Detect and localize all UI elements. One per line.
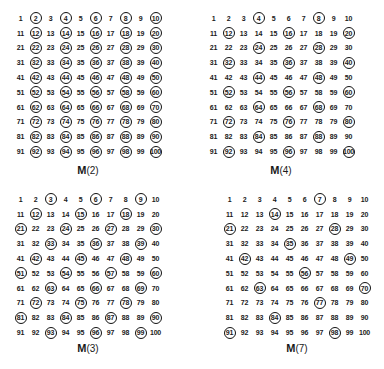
circled-number: 57 bbox=[103, 266, 118, 281]
number: 38 bbox=[327, 236, 342, 251]
number: 53 bbox=[43, 85, 58, 100]
number: 33 bbox=[236, 55, 251, 70]
number: 13 bbox=[252, 207, 267, 222]
circled-number: 88 bbox=[311, 129, 326, 144]
number: 2 bbox=[28, 192, 43, 207]
number: 53 bbox=[236, 85, 251, 100]
number: 9 bbox=[342, 192, 357, 207]
number: 89 bbox=[133, 310, 148, 325]
number: 27 bbox=[312, 222, 327, 237]
number: 87 bbox=[296, 129, 311, 144]
circled-number: 4 bbox=[251, 11, 266, 26]
circled-number: 60 bbox=[148, 85, 163, 100]
number: 86 bbox=[281, 129, 296, 144]
number: 100 bbox=[148, 325, 163, 340]
number: 48 bbox=[327, 251, 342, 266]
circled-number: 62 bbox=[28, 100, 43, 115]
circled-number: 78 bbox=[118, 115, 133, 130]
number-grid-m4: 1234567891011121314151617181920212223242… bbox=[206, 11, 356, 159]
number: 50 bbox=[341, 70, 356, 85]
circled-number: 12 bbox=[28, 26, 43, 41]
circled-number: 94 bbox=[58, 144, 73, 159]
circled-number: 70 bbox=[357, 281, 372, 296]
number: 36 bbox=[297, 236, 312, 251]
number: 44 bbox=[267, 251, 282, 266]
number: 97 bbox=[296, 144, 311, 159]
number: 41 bbox=[206, 70, 221, 85]
circled-number: 76 bbox=[281, 115, 296, 130]
circled-number: 24 bbox=[58, 222, 73, 237]
circled-number: 30 bbox=[148, 41, 163, 56]
circled-number: 40 bbox=[341, 55, 356, 70]
number: 59 bbox=[326, 85, 341, 100]
number: 56 bbox=[88, 266, 103, 281]
number: 43 bbox=[236, 70, 251, 85]
number: 5 bbox=[73, 192, 88, 207]
circled-number: 96 bbox=[88, 144, 103, 159]
number: 51 bbox=[13, 85, 28, 100]
circled-number: 16 bbox=[88, 26, 103, 41]
number: 88 bbox=[118, 310, 133, 325]
number: 25 bbox=[282, 222, 297, 237]
number: 29 bbox=[133, 41, 148, 56]
number: 59 bbox=[133, 85, 148, 100]
number: 13 bbox=[236, 26, 251, 41]
circled-number: 28 bbox=[118, 41, 133, 56]
circled-number: 24 bbox=[251, 41, 266, 56]
circled-number: 8 bbox=[311, 11, 326, 26]
circled-number: 42 bbox=[28, 251, 43, 266]
number: 3 bbox=[43, 11, 58, 26]
circled-number: 20 bbox=[341, 26, 356, 41]
number: 40 bbox=[357, 236, 372, 251]
number: 85 bbox=[73, 129, 88, 144]
number-grid-m3: 1234567891011121314151617181920212223242… bbox=[13, 192, 163, 340]
circled-number: 54 bbox=[58, 266, 73, 281]
number: 85 bbox=[266, 129, 281, 144]
circled-number: 39 bbox=[133, 236, 148, 251]
number: 70 bbox=[341, 100, 356, 115]
number: 19 bbox=[326, 26, 341, 41]
circled-number: 38 bbox=[118, 55, 133, 70]
circled-number: 10 bbox=[148, 11, 163, 26]
number: 88 bbox=[327, 310, 342, 325]
circled-number: 68 bbox=[118, 100, 133, 115]
number: 73 bbox=[43, 115, 58, 130]
number: 82 bbox=[237, 310, 252, 325]
panel-m3: 1234567891011121314151617181920212223242… bbox=[13, 192, 163, 340]
number: 3 bbox=[236, 11, 251, 26]
number: 2 bbox=[221, 11, 236, 26]
number: 10 bbox=[357, 192, 372, 207]
number: 27 bbox=[103, 41, 118, 56]
number: 5 bbox=[73, 11, 88, 26]
number: 47 bbox=[103, 251, 118, 266]
number: 64 bbox=[267, 281, 282, 296]
number: 1 bbox=[13, 11, 28, 26]
circled-number: 56 bbox=[281, 85, 296, 100]
number: 6 bbox=[297, 192, 312, 207]
number: 41 bbox=[222, 251, 237, 266]
circled-number: 91 bbox=[222, 325, 237, 340]
circled-number: 86 bbox=[88, 129, 103, 144]
label-m3: M(3) bbox=[13, 342, 163, 354]
number: 65 bbox=[73, 281, 88, 296]
circled-number: 90 bbox=[148, 129, 163, 144]
circled-number: 36 bbox=[88, 55, 103, 70]
label-m7: M(7) bbox=[222, 342, 372, 354]
number: 9 bbox=[133, 11, 148, 26]
number: 42 bbox=[221, 70, 236, 85]
circled-number: 84 bbox=[267, 310, 282, 325]
number: 18 bbox=[311, 26, 326, 41]
number: 34 bbox=[58, 236, 73, 251]
number: 95 bbox=[73, 325, 88, 340]
circled-number: 56 bbox=[297, 266, 312, 281]
circled-number: 35 bbox=[282, 236, 297, 251]
number: 96 bbox=[297, 325, 312, 340]
circled-number: 80 bbox=[148, 115, 163, 130]
number: 53 bbox=[252, 266, 267, 281]
circled-number: 76 bbox=[88, 115, 103, 130]
number: 58 bbox=[118, 266, 133, 281]
number: 34 bbox=[251, 55, 266, 70]
number: 46 bbox=[88, 251, 103, 266]
number-grid-m2: 1234567891011121314151617181920212223242… bbox=[13, 11, 163, 159]
number: 52 bbox=[28, 266, 43, 281]
